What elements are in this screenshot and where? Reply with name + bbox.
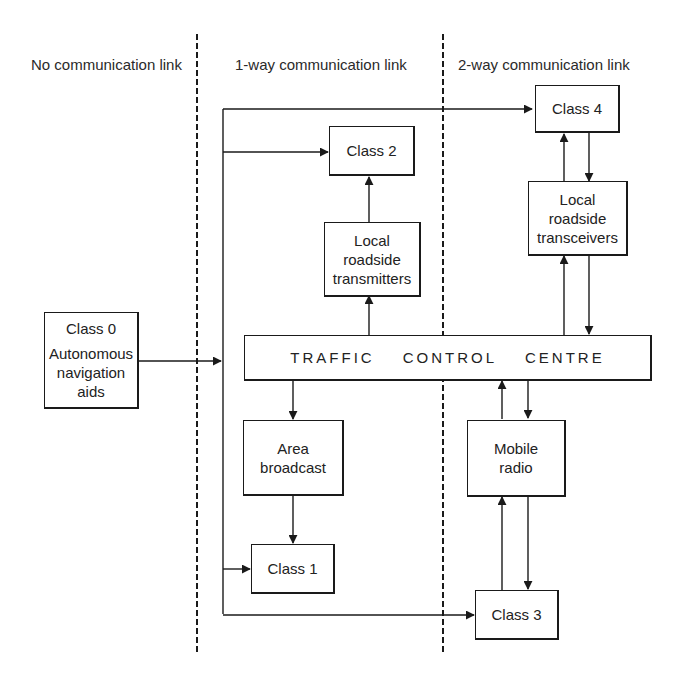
zone-label-no-link: No communication link: [31, 56, 182, 73]
mobile-radio-line-2: radio: [499, 458, 532, 477]
class4-box: Class 4: [535, 85, 620, 133]
zone-label-two-way: 2-way communication link: [458, 56, 630, 73]
area-broadcast-line-2: broadcast: [260, 458, 326, 477]
mobile-radio-box: Mobile radio: [467, 420, 566, 497]
class1-box: Class 1: [251, 544, 335, 594]
class4-label: Class 4: [552, 99, 602, 118]
class0-line-2: navigation: [57, 363, 125, 382]
transmitters-line-3: transmitters: [333, 269, 411, 288]
transmitters-line-1: Local: [354, 231, 390, 250]
transceivers-line-3: transceivers: [537, 228, 618, 247]
class3-box: Class 3: [475, 590, 559, 640]
transceivers-box: Local roadside transceivers: [528, 181, 628, 256]
tcc-word-2: CONTROL: [403, 348, 497, 367]
transceivers-line-2: roadside: [549, 209, 607, 228]
area-broadcast-line-1: Area: [277, 439, 309, 458]
tcc-word-3: CENTRE: [525, 348, 605, 367]
class0-box: Class 0 Autonomous navigation aids: [44, 312, 139, 409]
transceivers-line-1: Local: [560, 190, 596, 209]
class3-label: Class 3: [491, 605, 541, 624]
traffic-control-centre-box: TRAFFIC CONTROL CENTRE: [244, 335, 652, 381]
transmitters-box: Local roadside transmitters: [324, 222, 421, 297]
area-broadcast-box: Area broadcast: [243, 420, 344, 496]
class2-box: Class 2: [329, 126, 415, 176]
zone-label-one-way: 1-way communication link: [235, 56, 407, 73]
class1-label: Class 1: [267, 559, 317, 578]
class0-title: Class 0: [66, 319, 116, 338]
diagram-canvas: No communication link 1-way communicatio…: [0, 0, 680, 691]
transmitters-line-2: roadside: [343, 250, 401, 269]
mobile-radio-line-1: Mobile: [494, 439, 538, 458]
tcc-word-1: TRAFFIC: [290, 348, 374, 367]
class0-line-1: Autonomous: [49, 344, 133, 363]
class2-label: Class 2: [346, 141, 396, 160]
class0-line-3: aids: [77, 382, 105, 401]
